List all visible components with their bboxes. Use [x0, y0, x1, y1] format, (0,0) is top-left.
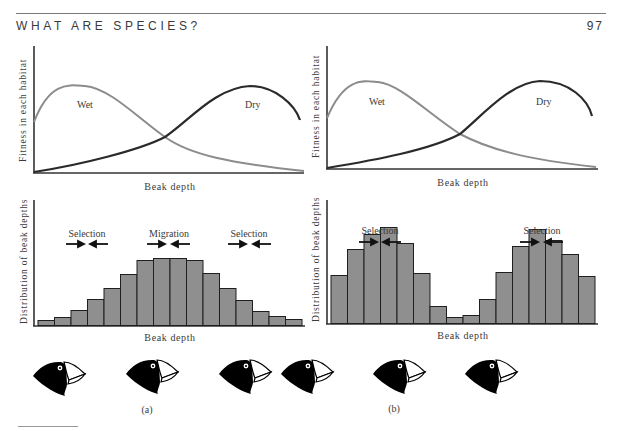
histogram-bar — [253, 312, 270, 326]
annotation-selection-right: Selection — [230, 228, 267, 239]
histogram-bar — [496, 273, 513, 324]
histogram-bar — [137, 261, 154, 326]
curve-label-dry: Dry — [536, 96, 552, 107]
fitness-chart-b: Wet Dry Fitness in each habitat Beak dep… — [311, 46, 598, 188]
selection-arrows — [66, 241, 271, 247]
histogram-bar — [562, 255, 579, 324]
histogram-bar — [430, 307, 447, 324]
histogram-bar — [269, 317, 286, 326]
histogram-bar — [480, 300, 497, 324]
histogram-bar — [397, 244, 414, 324]
histogram-bar — [55, 318, 72, 326]
histogram-bar — [88, 300, 105, 326]
annotation-selection-left: Selection — [361, 225, 398, 236]
finch-head-icon — [281, 360, 333, 394]
x-axis-label: Beak depth — [437, 177, 488, 188]
finch-head-icon — [465, 360, 517, 394]
histogram-bar — [104, 289, 121, 326]
figure: Wet Dry Fitness in each habitat Beak dep… — [0, 0, 618, 431]
distribution-chart-b: Selection Selection Distribution of beak… — [311, 197, 598, 341]
histogram-bar — [170, 259, 187, 326]
y-axis-label: Fitness in each habitat — [311, 55, 321, 158]
histogram-bar — [579, 277, 596, 324]
histogram-bar — [236, 301, 253, 326]
finch-head-icon — [126, 360, 178, 394]
histogram-bar — [331, 276, 348, 324]
finch-head-icon — [373, 360, 425, 394]
y-axis-label: Distribution of beak depths — [311, 197, 321, 322]
annotation-selection-right: Selection — [523, 225, 560, 236]
histogram-bar — [513, 247, 530, 324]
annotation-selection-left: Selection — [68, 228, 105, 239]
histogram-bar — [71, 311, 88, 326]
curve-label-dry: Dry — [245, 99, 261, 110]
histogram-bar — [364, 235, 381, 324]
histogram-bar — [414, 274, 431, 324]
histogram-bar — [286, 320, 303, 326]
finch-head-icon — [219, 360, 271, 394]
histogram-bar — [447, 318, 464, 324]
annotation-migration: Migration — [149, 228, 189, 239]
footnote-rule — [18, 426, 78, 427]
y-axis-label: Distribution of beak depths — [19, 199, 29, 324]
y-axis-label: Fitness in each habitat — [18, 59, 28, 162]
x-axis-label: Beak depth — [144, 332, 195, 343]
distribution-chart-a: Selection Migration Selection Distributi… — [19, 199, 305, 343]
panel-caption-a: (a) — [141, 404, 152, 416]
histogram-bar — [38, 321, 55, 326]
histogram-bar — [121, 275, 138, 326]
curve-label-wet: Wet — [369, 96, 385, 107]
histogram-bar — [203, 274, 220, 326]
histogram-bar — [546, 241, 563, 324]
curve-label-wet: Wet — [77, 99, 93, 110]
histogram-bar — [220, 289, 237, 326]
histogram-bar — [463, 316, 480, 324]
histogram-bar — [187, 261, 204, 326]
panel-caption-b: (b) — [388, 403, 400, 415]
fitness-chart-a: Wet Dry Fitness in each habitat Beak dep… — [18, 46, 304, 192]
finch-head-icon — [33, 362, 85, 396]
x-axis-label: Beak depth — [437, 330, 488, 341]
histogram-bar — [154, 259, 171, 326]
histogram-bar — [348, 250, 365, 324]
x-axis-label: Beak depth — [144, 181, 195, 192]
selection-arrows — [359, 239, 563, 245]
